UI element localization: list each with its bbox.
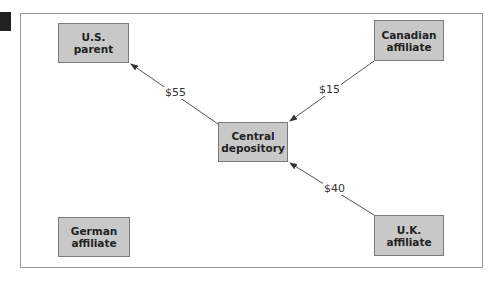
edge-label-40: $40 [323, 183, 346, 195]
edge-label-55: $55 [164, 87, 187, 99]
edge-label-15: $15 [318, 84, 341, 96]
node-german-affiliate: German affiliate [58, 217, 130, 257]
node-canadian-affiliate: Canadian affiliate [374, 20, 444, 61]
node-central-depository: Central depository [218, 122, 288, 162]
node-us-parent: U.S. parent [58, 23, 129, 63]
node-uk-affiliate: U.K. affiliate [374, 215, 444, 256]
